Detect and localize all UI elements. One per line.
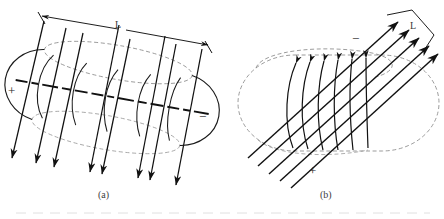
coil-winding <box>318 61 324 150</box>
panel-a-minus-sign: − <box>199 110 206 123</box>
dimension-arrow-right <box>126 30 208 45</box>
dimension-tick-right <box>205 41 212 53</box>
panel-a-caption: (a) <box>98 190 109 200</box>
panel-b-caption: (b) <box>320 190 332 200</box>
torus-b-bottom-ellipse <box>258 140 368 155</box>
figure-canvas <box>0 0 444 219</box>
panel-b-dimension-label: L <box>410 21 416 31</box>
dimension-a <box>38 12 212 53</box>
panel-b <box>238 10 439 188</box>
panel-a <box>0 12 228 185</box>
field-arrow <box>36 28 66 163</box>
field-arrow <box>12 21 44 158</box>
field-arrow <box>138 36 165 178</box>
field-arrow <box>150 44 176 180</box>
panel-b-minus-sign: − <box>352 32 359 45</box>
torus-b-outline <box>238 55 439 151</box>
beam-arrow <box>248 22 398 158</box>
dimension-tick-left <box>38 12 45 24</box>
beam-arrows-b <box>248 22 438 188</box>
field-arrow <box>54 33 83 167</box>
field-arrow <box>90 25 119 172</box>
dimension-arrow-left <box>42 16 118 29</box>
beam-arrow <box>258 30 409 166</box>
coil-winding <box>350 59 353 150</box>
figure-root: + − L (a) + − L (b) <box>0 0 444 219</box>
field-arrows-a <box>12 21 202 185</box>
coil-winding <box>334 60 338 150</box>
panel-a-plus-sign: + <box>8 84 15 97</box>
panel-b-plus-sign: + <box>309 164 316 177</box>
torus-a-equator <box>16 80 209 114</box>
panel-a-dimension-label: L <box>115 20 121 30</box>
field-arrow <box>102 39 130 174</box>
